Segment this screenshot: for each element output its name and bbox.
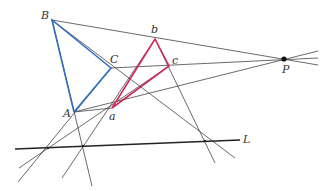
intersection-point-2 <box>82 145 84 147</box>
label-L: L <box>242 133 250 146</box>
label-b: b <box>151 23 158 36</box>
triangle-abc <box>112 39 169 108</box>
label-A: A <box>62 107 71 120</box>
desargues-diagram: B C A b c a P L <box>0 0 332 191</box>
label-B: B <box>40 9 49 22</box>
label-P: P <box>281 63 290 76</box>
line-BC-ext <box>52 20 235 158</box>
triangle-ABC <box>52 20 111 112</box>
line-Bb-P <box>52 20 318 65</box>
intersection-point-1 <box>47 147 49 149</box>
intersection-point-3 <box>204 140 206 142</box>
line-ac-ext <box>19 66 169 168</box>
label-C: C <box>110 53 119 66</box>
label-c: c <box>172 54 178 67</box>
point-P <box>281 56 286 61</box>
label-a: a <box>109 110 116 123</box>
